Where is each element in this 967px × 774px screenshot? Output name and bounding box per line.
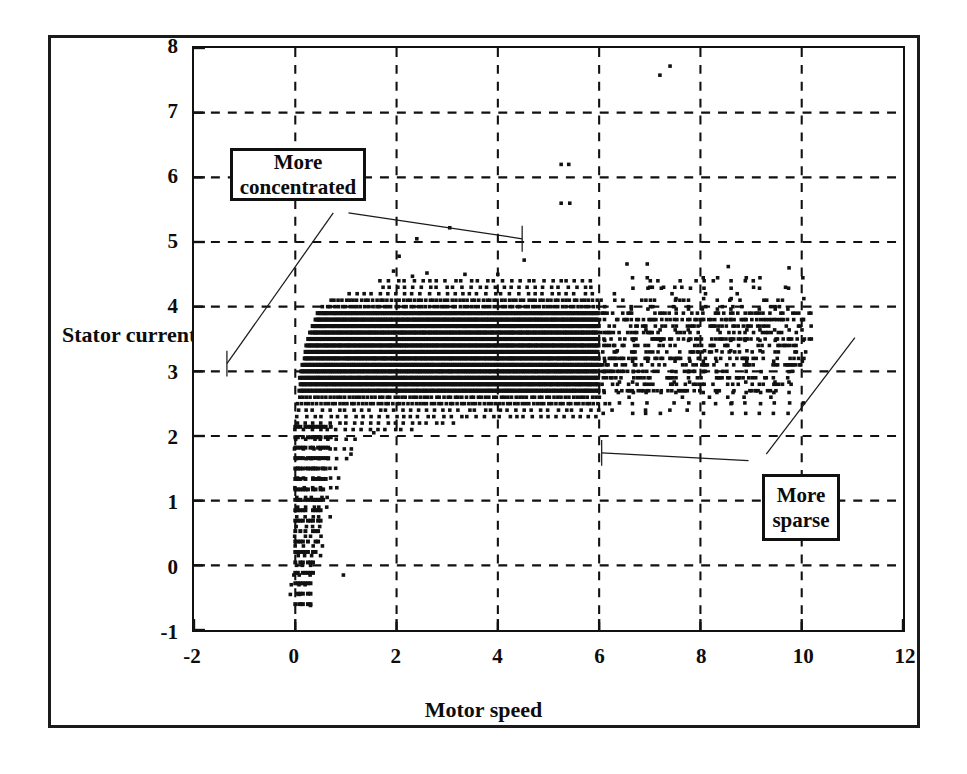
y-tick-label: 1 bbox=[168, 491, 179, 512]
y-tick-label: 0 bbox=[168, 556, 179, 577]
y-tick-label: 4 bbox=[168, 296, 179, 317]
callout-more-concentrated: More concentrated bbox=[230, 148, 366, 201]
x-tick-label: -2 bbox=[183, 646, 201, 667]
y-tick-label: 5 bbox=[168, 231, 179, 252]
x-axis-title: Motor speed bbox=[0, 697, 967, 723]
x-tick-label: 10 bbox=[793, 646, 814, 667]
y-tick-label: 6 bbox=[168, 166, 179, 187]
callout-more-concentrated-line1: More bbox=[240, 150, 357, 174]
x-tick-label: 2 bbox=[390, 646, 401, 667]
callout-more-sparse: More sparse bbox=[762, 474, 840, 541]
figure-container: -1012345678 -2024681012 Stator current M… bbox=[0, 0, 967, 774]
plot-area bbox=[192, 46, 905, 632]
callout-more-sparse-line1: More bbox=[772, 483, 829, 507]
callout-more-concentrated-line2: concentrated bbox=[240, 175, 357, 199]
y-axis-title: Stator current bbox=[62, 322, 196, 349]
y-tick-label: 2 bbox=[168, 426, 179, 447]
x-tick-label: 12 bbox=[895, 646, 916, 667]
y-tick-label: 3 bbox=[168, 361, 179, 382]
y-axis-title-line2: current bbox=[126, 322, 196, 347]
x-tick-label: 0 bbox=[289, 646, 300, 667]
x-tick-label: 4 bbox=[492, 646, 503, 667]
x-tick-label: 6 bbox=[594, 646, 605, 667]
y-tick-label: -1 bbox=[161, 622, 179, 643]
y-tick-label: 7 bbox=[168, 101, 179, 122]
y-axis-title-line1: Stator bbox=[62, 322, 120, 347]
callout-more-sparse-line2: sparse bbox=[772, 508, 829, 532]
y-tick-label: 8 bbox=[168, 36, 179, 57]
x-tick-label: 8 bbox=[696, 646, 707, 667]
annotation-leader-lines bbox=[194, 48, 903, 630]
